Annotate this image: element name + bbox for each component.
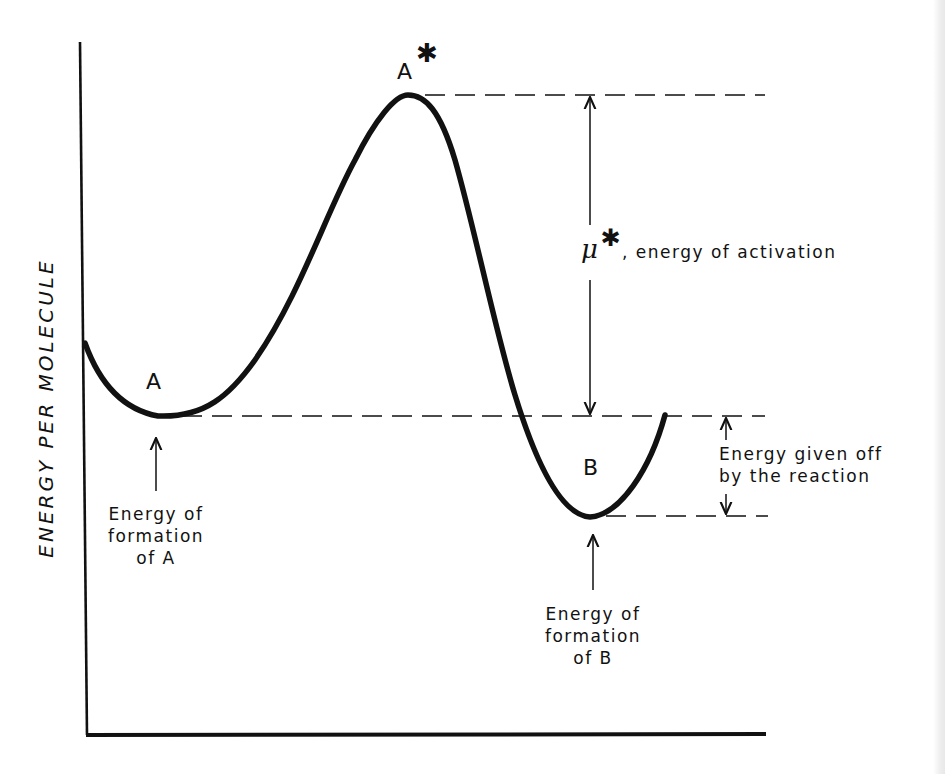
energy-released-line-1: Energy given off xyxy=(719,443,883,465)
energy-diagram xyxy=(0,0,945,774)
formation-b-line-1: Energy of xyxy=(533,603,653,625)
formation-a-line-3: of A xyxy=(96,547,216,569)
point-b-label: B xyxy=(583,456,598,480)
y-axis-label: ENERGY PER MOLECULE xyxy=(34,258,58,557)
energy-released-line-2: by the reaction xyxy=(719,465,883,487)
formation-a-label: Energy of formation of A xyxy=(96,503,216,569)
formation-b-line-2: formation xyxy=(533,625,653,647)
energy-released-label: Energy given off by the reaction xyxy=(719,443,883,487)
formation-a-line-2: formation xyxy=(96,525,216,547)
reference-lines xyxy=(182,95,768,516)
mu-symbol: μ xyxy=(581,234,599,264)
axes xyxy=(80,42,766,735)
formation-b-label: Energy of formation of B xyxy=(533,603,653,669)
formation-b-line-3: of B xyxy=(533,647,653,669)
x-axis xyxy=(86,734,766,735)
activation-energy-label: μ✱, energy of activation xyxy=(581,238,836,263)
formation-a-line-1: Energy of xyxy=(96,503,216,525)
point-a-label: A xyxy=(146,370,161,394)
asterisk-icon: ✱ xyxy=(416,40,438,66)
point-a-star-label: A xyxy=(397,60,412,84)
asterisk-icon: ✱ xyxy=(600,224,622,252)
y-axis xyxy=(80,42,87,735)
activation-text: , energy of activation xyxy=(622,242,836,262)
energy-curve xyxy=(85,95,665,517)
